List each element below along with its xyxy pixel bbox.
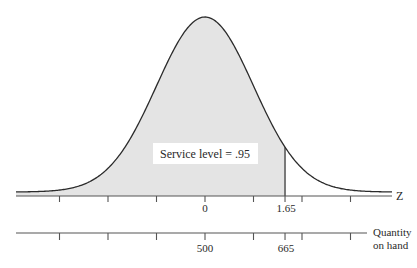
z-axis-label: Z <box>396 189 403 203</box>
normal-distribution-chart: Service level = .95 Z 0 1.65 Quantity on… <box>0 0 417 268</box>
shaded-area-service-level <box>16 17 285 196</box>
z-tick-label-1-65: 1.65 <box>276 202 296 214</box>
quantity-axis-ticks <box>60 233 351 240</box>
z-tick-label-0: 0 <box>202 202 208 214</box>
quantity-axis-label-line1: Quantity <box>373 226 412 238</box>
service-level-label: Service level = .95 <box>160 147 250 161</box>
quantity-tick-label-665: 665 <box>278 242 295 254</box>
quantity-tick-label-500: 500 <box>197 242 214 254</box>
quantity-axis-label-line2: on hand <box>373 239 409 251</box>
